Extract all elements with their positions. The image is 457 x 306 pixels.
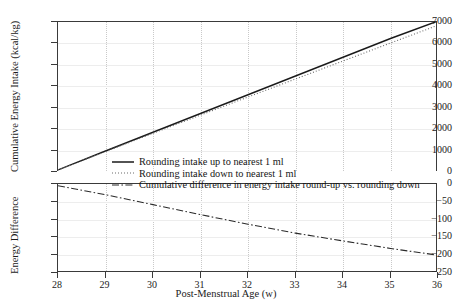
legend-label-1: Rounding intake down to nearest 1 ml [139, 168, 296, 179]
y-tick-label-cumulative-energy-intake-5000: 5000 [406, 59, 452, 69]
legend-item-2[interactable]: Cumulative difference in energy intake r… [112, 179, 420, 191]
y-tick-label-energy-difference--100: −100 [406, 214, 452, 224]
solid-line-swatch [112, 157, 134, 167]
y-tick-label-energy-difference--150: −150 [406, 231, 452, 241]
y-axis-title-top: Cumulative Energy Intake (kcal/kg) [9, 21, 20, 172]
panel-energy-difference [57, 183, 437, 272]
y-tick-mark-cumulative-energy-intake-6000 [51, 42, 57, 43]
y-tick-label-energy-difference--50: −50 [406, 196, 452, 206]
x-tick-mark-33 [295, 272, 296, 278]
x-tick-mark-31 [200, 272, 201, 278]
legend: Rounding intake up to nearest 1 mlRoundi… [112, 156, 420, 191]
y-tick-label-cumulative-energy-intake-4000: 4000 [406, 80, 452, 90]
legend-label-0: Rounding intake up to nearest 1 ml [139, 156, 284, 167]
x-tick-mark-29 [105, 272, 106, 278]
y-tick-mark-cumulative-energy-intake-5000 [51, 64, 57, 65]
x-tick-mark-30 [152, 272, 153, 278]
dashdot-line-swatch [112, 180, 134, 190]
panel-cumulative-energy-intake [57, 21, 437, 171]
series-layer-bottom [58, 184, 437, 272]
series-line-energy-difference-0 [58, 186, 437, 255]
x-tick-mark-35 [390, 272, 391, 278]
y-tick-label-cumulative-energy-intake-7000: 7000 [406, 16, 452, 26]
y-tick-mark-cumulative-energy-intake-2000 [51, 128, 57, 129]
y-tick-label-cumulative-energy-intake-6000: 6000 [406, 37, 452, 47]
y-tick-mark-cumulative-energy-intake-3000 [51, 107, 57, 108]
x-tick-mark-34 [342, 272, 343, 278]
y-tick-label-energy-difference--250: −250 [406, 267, 452, 277]
series-line-cumulative-energy-intake-1 [58, 25, 437, 170]
y-tick-mark-cumulative-energy-intake-0 [51, 171, 57, 172]
x-tick-mark-28 [57, 272, 58, 278]
y-tick-mark-energy-difference--150 [51, 236, 57, 237]
y-tick-label-cumulative-energy-intake-1000: 1000 [406, 145, 452, 155]
y-tick-mark-energy-difference-0 [51, 183, 57, 184]
legend-item-1[interactable]: Rounding intake down to nearest 1 ml [112, 168, 420, 180]
y-tick-label-cumulative-energy-intake-3000: 3000 [406, 102, 452, 112]
y-tick-mark-energy-difference--100 [51, 219, 57, 220]
y-axis-title-bottom: Energy Difference [9, 197, 20, 274]
legend-label-2: Cumulative difference in energy intake r… [139, 179, 420, 190]
x-tick-mark-36 [437, 272, 438, 278]
legend-item-0[interactable]: Rounding intake up to nearest 1 ml [112, 156, 420, 168]
y-tick-mark-cumulative-energy-intake-7000 [51, 21, 57, 22]
x-tick-mark-32 [247, 272, 248, 278]
dotted-line-swatch [112, 168, 134, 178]
y-tick-mark-cumulative-energy-intake-1000 [51, 150, 57, 151]
series-layer-top [58, 22, 437, 171]
y-tick-mark-energy-difference--200 [51, 254, 57, 255]
x-axis-title: Post-Menstrual Age (w) [0, 288, 452, 299]
y-tick-mark-cumulative-energy-intake-4000 [51, 85, 57, 86]
y-tick-mark-energy-difference--50 [51, 201, 57, 202]
y-tick-label-cumulative-energy-intake-2000: 2000 [406, 123, 452, 133]
series-line-cumulative-energy-intake-0 [58, 21, 437, 170]
y-tick-label-energy-difference--200: −200 [406, 249, 452, 259]
